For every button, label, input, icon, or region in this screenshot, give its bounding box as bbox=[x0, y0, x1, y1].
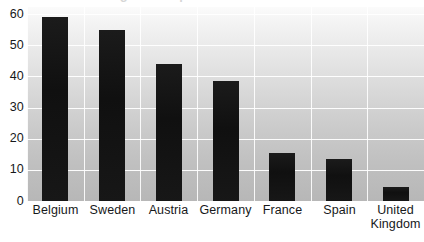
y-axis-tick-label: 50 bbox=[0, 39, 24, 52]
x-axis-label-line1: Belgium bbox=[33, 203, 79, 217]
x-axis-label-line1: Spain bbox=[323, 203, 355, 217]
x-axis-category-label: Spain bbox=[311, 203, 368, 217]
x-axis-label-line1: United bbox=[377, 203, 414, 217]
x-axis-label-line1: Germany bbox=[199, 203, 251, 217]
bar bbox=[383, 187, 409, 201]
cropped-title-text: Percentage of respondents bbox=[60, 0, 350, 2]
x-axis-category-label: Sweden bbox=[84, 203, 141, 217]
bar bbox=[326, 159, 352, 201]
y-axis-tick-label: 40 bbox=[0, 70, 24, 83]
x-axis-category-label: France bbox=[254, 203, 311, 217]
x-axis-category-label: Germany bbox=[197, 203, 254, 217]
x-axis-label-line1: Austria bbox=[149, 203, 189, 217]
bar bbox=[269, 153, 295, 201]
x-axis-label-line1: Sweden bbox=[90, 203, 136, 217]
bar bbox=[42, 17, 68, 201]
y-axis-tick-label: 20 bbox=[0, 132, 24, 145]
bar bbox=[99, 30, 125, 201]
y-axis-tick-label: 60 bbox=[0, 8, 24, 21]
x-axis-category-label: UnitedKingdom bbox=[367, 203, 424, 231]
x-axis-label-line2: Kingdom bbox=[367, 217, 424, 231]
gridline-horizontal bbox=[27, 45, 424, 46]
y-axis-tick-label: 30 bbox=[0, 101, 24, 114]
bar-chart: Percentage of respondents 6050403020100 … bbox=[0, 0, 424, 242]
y-axis-tick-label: 0 bbox=[0, 195, 24, 208]
x-axis-category-label: Austria bbox=[140, 203, 197, 217]
cropped-title-remnant: Percentage of respondents bbox=[60, 0, 350, 5]
gridline-vertical bbox=[197, 7, 198, 201]
gridline-vertical bbox=[140, 7, 141, 201]
gridline-horizontal bbox=[27, 14, 424, 15]
gridline-vertical bbox=[84, 7, 85, 201]
x-axis-label-line1: France bbox=[263, 203, 303, 217]
y-axis: 6050403020100 bbox=[0, 0, 24, 210]
gridline-vertical bbox=[311, 7, 312, 201]
x-axis: BelgiumSwedenAustriaGermanyFranceSpainUn… bbox=[27, 203, 424, 242]
gridline-vertical bbox=[367, 7, 368, 201]
bar bbox=[213, 81, 239, 201]
plot-area bbox=[27, 7, 424, 201]
gridline-vertical bbox=[254, 7, 255, 201]
gridline-horizontal bbox=[27, 76, 424, 77]
bar bbox=[156, 64, 182, 201]
x-axis-category-label: Belgium bbox=[27, 203, 84, 217]
gridline-vertical bbox=[27, 7, 28, 201]
y-axis-tick-label: 10 bbox=[0, 163, 24, 176]
